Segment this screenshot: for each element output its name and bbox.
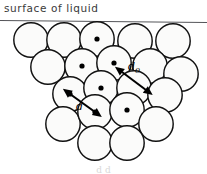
- distance-label-d-measure: d: [76, 100, 83, 113]
- molecule-circle: [78, 126, 112, 160]
- molecule-circle: [139, 107, 173, 141]
- liquid-molecule-packing-figure: surface of liquid dd0 d d: [0, 0, 207, 174]
- molecule-diagram-canvas: dd0: [0, 0, 207, 174]
- molecule-circle: [31, 50, 65, 84]
- molecule-centre-dot: [124, 107, 129, 112]
- molecule-circle: [110, 126, 144, 160]
- molecules-group: [14, 22, 198, 160]
- molecule-centre-dot: [111, 60, 116, 65]
- molecule-centre-dot: [98, 85, 103, 90]
- molecule-centre-dot: [94, 36, 99, 41]
- molecule-centre-dot: [79, 63, 84, 68]
- figure-caption-cropped: d d: [0, 165, 207, 174]
